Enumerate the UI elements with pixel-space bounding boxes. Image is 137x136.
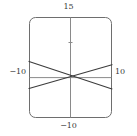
x-min-tick-label: −10	[2, 68, 26, 76]
y-max-tick-label: 15	[0, 3, 137, 11]
chart-figure: 15 −10 −10 10	[0, 0, 137, 136]
x-max-tick-label: 10	[115, 68, 135, 76]
y-min-tick-label: −10	[0, 122, 137, 130]
